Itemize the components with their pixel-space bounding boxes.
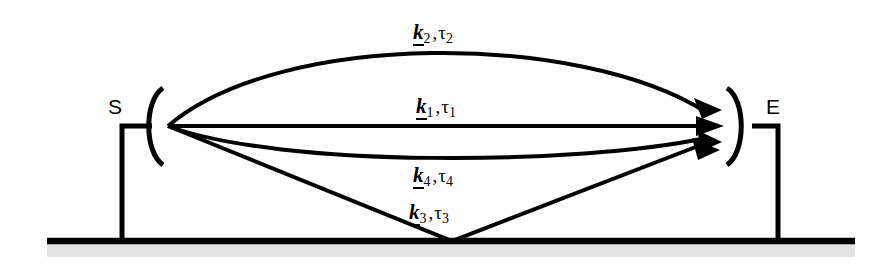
ray-label-k2-tausub: 2	[446, 31, 453, 46]
ray-label-k4-kvar: k	[413, 163, 424, 189]
ray-label-k1: k1,τ1	[416, 96, 456, 120]
ray-label-k1-tausub: 1	[449, 105, 456, 120]
ray-label-k2: k2,τ2	[413, 22, 453, 46]
ray-label-k3-tausub: 3	[442, 211, 449, 226]
receiver-bracket-icon	[727, 88, 741, 165]
ray-label-k3-tau: τ	[434, 202, 442, 223]
ray-label-k4-ksub: 4	[424, 174, 431, 189]
ray-path-figure: S E k2,τ2 k1,τ1 k4,τ4 k3,τ3	[0, 0, 896, 265]
source-bracket-icon	[149, 88, 163, 165]
ray-label-k1-kvar: k	[416, 94, 427, 120]
ray-label-k4: k4,τ4	[413, 165, 453, 189]
ray-label-k4-tausub: 4	[446, 174, 453, 189]
receiver-label: E	[766, 96, 780, 117]
arrowhead-k2	[694, 98, 722, 119]
ray-label-k2-tau: τ	[438, 22, 446, 43]
ray-label-k2-kvar: k	[413, 20, 424, 46]
ray-label-k1-tau: τ	[441, 96, 449, 117]
source-label: S	[108, 96, 122, 117]
ray-label-k4-tau: τ	[438, 165, 446, 186]
receiver-support-post	[752, 126, 778, 241]
ground-shadow-band	[47, 244, 855, 257]
ray-line-k4	[168, 126, 706, 158]
ray-label-k2-ksub: 2	[424, 31, 431, 46]
ray-label-k3: k3,τ3	[409, 202, 449, 226]
ray-label-k3-ksub: 3	[420, 211, 427, 226]
ray-label-k1-ksub: 1	[427, 105, 434, 120]
source-support-post	[122, 126, 152, 241]
ray-label-k3-kvar: k	[409, 200, 420, 226]
